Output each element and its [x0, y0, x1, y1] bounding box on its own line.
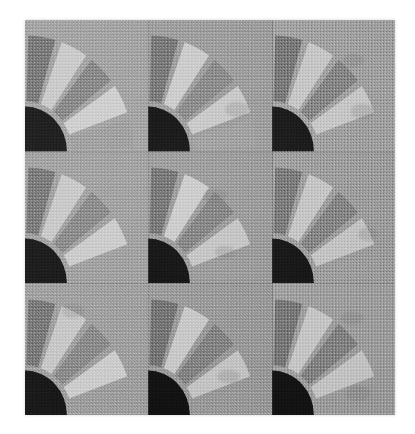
fan-motif — [148, 152, 271, 284]
fan-motif — [272, 152, 395, 284]
quilt-block — [148, 283, 271, 415]
quilt-block — [25, 283, 148, 415]
quilt-block — [272, 152, 395, 284]
quilt-block — [148, 152, 271, 284]
quilt-photograph — [25, 20, 395, 415]
quilt-block — [272, 283, 395, 415]
fan-motif — [25, 152, 148, 284]
fan-motif — [25, 283, 148, 415]
quilt-block — [25, 20, 148, 152]
quilt-block — [148, 20, 271, 152]
quilt-block — [25, 152, 148, 284]
fan-motif — [148, 283, 271, 415]
quilt-block-grid — [25, 20, 395, 415]
quilt-block — [272, 20, 395, 152]
fan-motif — [272, 283, 395, 415]
fan-motif — [25, 20, 148, 152]
fan-motif — [272, 20, 395, 152]
fan-motif — [148, 20, 271, 152]
